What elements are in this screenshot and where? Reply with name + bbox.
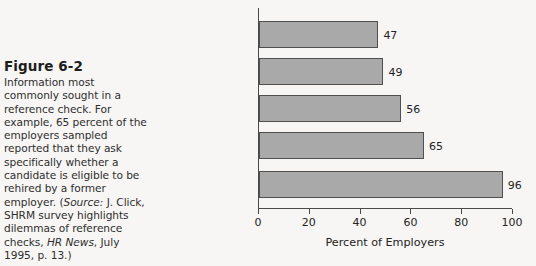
x-tick-100: [512, 209, 513, 214]
x-tick-label-20: 20: [302, 216, 316, 229]
x-tick-60: [410, 209, 411, 214]
plot-area: Reason for leaving previous employer 47 …: [258, 8, 512, 209]
x-axis-title: Percent of Employers: [258, 236, 512, 249]
bar-2: [259, 95, 401, 122]
x-tick-label-40: 40: [353, 216, 367, 229]
x-tick-label-0: 0: [255, 216, 262, 229]
bar-value-3: 65: [424, 139, 443, 152]
bar-value-0: 47: [378, 28, 397, 41]
figure-container: Figure 6-2 Information most commonly sou…: [0, 0, 536, 266]
caption-part-1: Information most commonly sought in a re…: [4, 76, 147, 208]
x-tick-20: [309, 209, 310, 214]
figure-caption-text: Information most commonly sought in a re…: [4, 76, 150, 262]
bar-1: [259, 58, 383, 85]
bar-4: [259, 171, 503, 198]
x-tick-80: [461, 209, 462, 214]
bar-value-1: 49: [383, 65, 402, 78]
bar-value-2: 56: [401, 102, 420, 115]
x-axis-line: [258, 208, 512, 209]
x-tick-0: [258, 209, 259, 214]
x-tick-40: [360, 209, 361, 214]
caption-publication-name: HR News: [47, 236, 94, 248]
bar-chart: Reason for leaving previous employer 47 …: [150, 0, 536, 266]
bar-3: [259, 132, 424, 159]
bar-value-4: 96: [503, 178, 522, 191]
caption-source-label: Source:: [63, 196, 103, 208]
figure-title: Figure 6-2: [4, 58, 150, 74]
figure-caption-block: Figure 6-2 Information most commonly sou…: [4, 58, 150, 262]
x-tick-label-80: 80: [454, 216, 468, 229]
x-tick-label-100: 100: [502, 216, 523, 229]
bar-0: [259, 21, 378, 48]
x-tick-label-60: 60: [403, 216, 417, 229]
